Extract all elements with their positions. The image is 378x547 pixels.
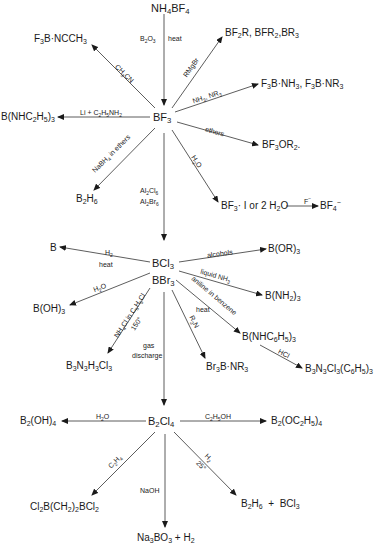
node-b-or3: B(OR)3 [268, 244, 300, 254]
node-bf3: BF3 [153, 112, 171, 123]
label-naoh: NaOH [140, 487, 159, 494]
node-bf3or2: BF3OR2. [262, 140, 300, 150]
node-b-nh2-3: B(NH2)3 [265, 291, 301, 301]
label-al2cl6: Al2Cl6 [140, 187, 158, 194]
label-f-minus: F− [304, 198, 311, 205]
node-b-nhc6h5: B(NHC6H5)3 [242, 332, 296, 342]
node-bf3-h2o: BF3· I or 2 H2O [221, 201, 288, 211]
node-b2h6-bcl3: B2H6 + BCl3 [241, 499, 300, 509]
node-f3b-nh3: F3B·NH3, F3B·NR3 [261, 79, 343, 89]
node-b3n3cl3: B3N3Cl3(C6H5)3 [305, 364, 373, 374]
label-b2o3: B2O3 [140, 35, 156, 42]
arrow-bf3-f3bnh3 [175, 84, 258, 112]
node-b2oh4: B2(OH)4 [20, 416, 56, 426]
label-discharge: discharge [132, 352, 162, 359]
node-b2oc2h5: B2(OC2H5)4 [271, 416, 322, 426]
node-b-oh3: B(OH)3 [33, 304, 65, 314]
label-h2: H2 [105, 249, 113, 256]
node-bf4: BF4− [320, 201, 341, 211]
node-bf2r: BF2R, BFR2,BR3 [225, 28, 299, 38]
node-b2h6-top: B2H6 [76, 194, 98, 204]
label-heat-aniline: heat [196, 306, 210, 313]
label-heat: heat [168, 35, 182, 42]
label-gas: gas [143, 342, 154, 349]
node-bbr3: BBr3 [152, 275, 175, 286]
node-b: B [50, 243, 57, 253]
label-h2o-b2cl4: H2O [96, 413, 109, 420]
label-c2h5oh: C2H5OH [205, 413, 231, 420]
node-b3n3h3cl3: B3N3H3Cl3 [66, 361, 112, 371]
label-li: Li + C2H5NH2 [80, 109, 122, 116]
node-na3bo3: Na3BO3 + H2 [137, 533, 195, 543]
node-b-nhc2h5: B(NHC2H5)3 [1, 112, 55, 122]
arrow-b2cl4-cl2b [92, 432, 155, 495]
node-nh4bf4: NH4BF4 [151, 3, 190, 14]
node-bcl3: BCl3 [152, 258, 174, 269]
node-b2cl4: B2Cl4 [148, 416, 174, 427]
node-cl2b: Cl2B(CH2)2BCl2 [30, 502, 99, 512]
node-f3b-ncch3: F3B·NCCH3 [34, 34, 87, 44]
label-heat-b: heat [99, 261, 113, 268]
label-al2br6: Al2Br6 [140, 198, 159, 205]
node-br3b-nr3: Br3B·NR3 [206, 362, 248, 372]
